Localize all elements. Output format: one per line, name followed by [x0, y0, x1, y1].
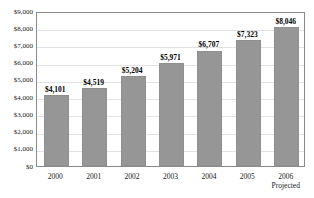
y-axis-tick-label: $7,000 — [0, 43, 33, 50]
bar-value-label: $5,971 — [146, 54, 196, 62]
bar — [197, 51, 222, 167]
y-axis-tick-label: $3,000 — [0, 112, 33, 119]
y-axis-tick-label: $2,000 — [0, 129, 33, 136]
x-axis-tick-sublabel: Projected — [261, 181, 311, 190]
bar-value-label: $4,101 — [30, 86, 80, 94]
bar — [44, 95, 69, 166]
bar-value-label: $8,046 — [261, 18, 311, 26]
bar-value-label: $7,323 — [222, 31, 272, 39]
bar — [159, 63, 184, 166]
bar — [274, 27, 299, 166]
bar-chart: $9,000$8,000$7,000$6,000$5,000$4,000$3,0… — [0, 0, 314, 198]
gridline — [37, 47, 304, 48]
bar-value-label: $5,204 — [107, 67, 157, 75]
bar — [121, 76, 146, 166]
y-axis-tick-label: $6,000 — [0, 60, 33, 67]
bar — [82, 88, 107, 166]
x-axis-tick-label: 2006Projected — [261, 172, 311, 191]
y-axis-tick-label: $1,000 — [0, 146, 33, 153]
y-axis-tick-label: $9,000 — [0, 9, 33, 16]
bar-value-label: $6,707 — [184, 41, 234, 49]
y-axis-tick-label: $5,000 — [0, 77, 33, 84]
y-axis-tick-label: $0 — [0, 164, 33, 171]
bar-value-label: $4,519 — [69, 79, 119, 87]
y-axis-tick-label: $8,000 — [0, 26, 33, 33]
bar — [236, 40, 261, 166]
y-axis-tick-label: $4,000 — [0, 95, 33, 102]
